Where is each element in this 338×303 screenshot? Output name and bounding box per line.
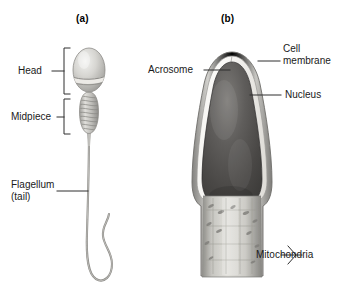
head-highlight <box>78 51 90 69</box>
midpiece-bracket <box>64 99 70 134</box>
label-cell-membrane-line2: membrane <box>283 55 331 67</box>
label-flagellum-line2: (tail) <box>11 191 54 203</box>
label-mitochondria: Mitochondria <box>256 249 313 261</box>
label-flagellum-line1: Flagellum <box>11 179 54 191</box>
sperm-anatomy-figure: (a) (b) <box>0 0 338 303</box>
panel-a-sperm-drawing <box>70 48 112 281</box>
label-head: Head <box>18 65 42 77</box>
label-nucleus: Nucleus <box>285 89 321 101</box>
label-flagellum: Flagellum (tail) <box>11 179 54 203</box>
label-midpiece: Midpiece <box>11 111 51 123</box>
label-cell-membrane: Cell membrane <box>283 43 331 67</box>
head-bracket <box>64 48 70 94</box>
label-acrosome: Acrosome <box>148 64 193 76</box>
flagellum-tail-shape <box>87 130 112 281</box>
panel-b-sperm-head-section <box>192 52 272 277</box>
flagellum-highlight <box>87 130 112 281</box>
label-cell-membrane-line1: Cell <box>283 43 331 55</box>
